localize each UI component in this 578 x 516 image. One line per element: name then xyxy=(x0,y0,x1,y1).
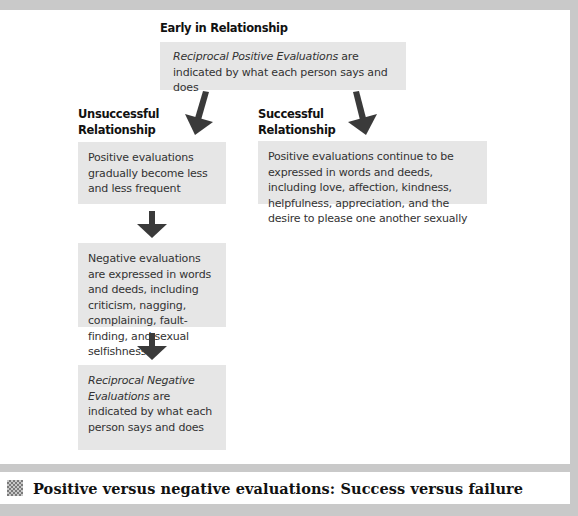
figure-caption: Positive versus negative evaluations: Su… xyxy=(0,472,570,504)
arrow-down-icon xyxy=(137,211,167,238)
arrows-layer xyxy=(0,0,578,516)
arrow-down-right-icon xyxy=(348,91,377,135)
arrow-down-left-icon xyxy=(185,91,213,135)
caption-text: Positive versus negative evaluations: Su… xyxy=(33,480,523,497)
figure-icon xyxy=(7,480,23,496)
arrow-down-icon xyxy=(137,333,167,360)
